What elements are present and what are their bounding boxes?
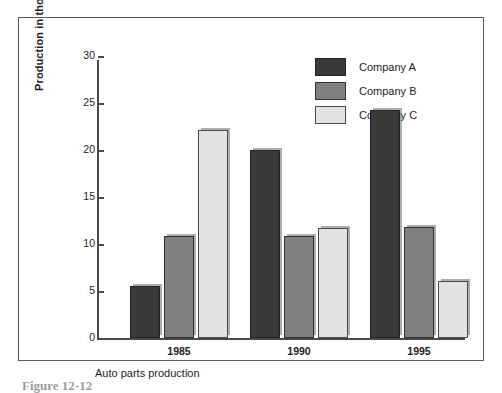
bar-company-a-1995[interactable] — [370, 110, 400, 338]
x-axis-group-label: 1985 — [130, 345, 228, 357]
bar-company-b-1995[interactable] — [404, 227, 434, 338]
figure-frame: Production in thousands 051015202530 198… — [18, 17, 484, 361]
bar-company-c-1990[interactable] — [318, 228, 348, 338]
bar-company-a-1990[interactable] — [250, 150, 280, 338]
y-axis-title: Production in thousands — [33, 0, 45, 110]
x-axis-group-label: 1990 — [250, 345, 348, 357]
bar-group-1985 — [130, 56, 228, 338]
y-axis-tick-label: 10 — [83, 237, 95, 249]
bar-company-a-1985[interactable] — [130, 286, 160, 338]
y-axis-tick-label: 20 — [83, 143, 95, 155]
y-axis-tick-label: 5 — [89, 284, 95, 296]
bar-company-c-1995[interactable] — [438, 281, 468, 338]
y-axis-tick-label: 25 — [83, 96, 95, 108]
y-axis-tick-label: 30 — [83, 49, 95, 61]
y-axis-tick-label: 15 — [83, 190, 95, 202]
chart-legend: Company ACompany BCompany C — [315, 56, 417, 128]
bar-company-c-1985[interactable] — [198, 130, 228, 338]
legend-item-company-a[interactable]: Company A — [315, 56, 417, 77]
legend-swatch-icon — [315, 82, 346, 100]
bar-company-b-1990[interactable] — [284, 236, 314, 338]
x-axis-title: Auto parts production — [95, 367, 200, 379]
legend-swatch-icon — [315, 106, 346, 124]
legend-label: Company B — [359, 85, 416, 97]
bar-company-b-1985[interactable] — [164, 236, 194, 338]
figure-caption: Figure 12-12 — [22, 378, 92, 393]
legend-label: Company A — [359, 61, 416, 73]
legend-swatch-icon — [315, 58, 346, 76]
x-axis-group-label: 1995 — [370, 345, 468, 357]
legend-item-company-b[interactable]: Company B — [315, 80, 417, 101]
y-axis-tick-label: 0 — [89, 331, 95, 343]
legend-item-company-c[interactable]: Company C — [315, 104, 417, 125]
